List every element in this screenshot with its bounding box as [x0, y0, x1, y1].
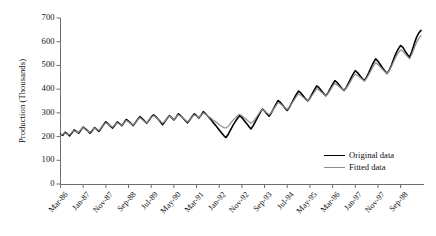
y-axis-tick-label: 0 [29, 179, 55, 188]
y-axis-tick-label: 700 [29, 13, 55, 22]
y-axis-tick-label: 600 [29, 37, 55, 46]
y-axis-tick-label: 200 [29, 132, 55, 141]
legend-line-icon-fitted [324, 167, 345, 168]
y-axis-title: Production (Thousands) [17, 21, 27, 181]
legend-item-original: Original data [324, 150, 394, 162]
chart-legend: Original data Fitted data [324, 150, 394, 173]
production-line-chart: Production (Thousands) 01002003004005006… [0, 0, 436, 236]
data-series-group [61, 30, 422, 137]
legend-item-fitted: Fitted data [324, 162, 394, 174]
legend-line-icon-original [324, 155, 345, 156]
y-axis-tick-label: 100 [29, 155, 55, 164]
series-line-original-data [61, 30, 422, 137]
y-axis-tick-label: 500 [29, 60, 55, 69]
legend-label-fitted: Fitted data [349, 162, 386, 174]
series-line-fitted-data [61, 36, 422, 136]
legend-label-original: Original data [349, 150, 394, 162]
y-axis-ticks [57, 18, 61, 184]
y-axis-tick-label: 400 [29, 84, 55, 93]
y-axis-tick-label: 300 [29, 108, 55, 117]
